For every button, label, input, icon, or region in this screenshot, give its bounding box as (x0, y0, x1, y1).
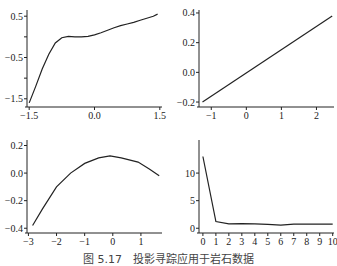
x-tick-label: 3 (239, 236, 244, 247)
x-tick-label: 8 (304, 236, 309, 247)
x-tick-label: 0 (244, 110, 249, 121)
y-tick-label: −0.2 (5, 195, 23, 206)
series-line (33, 156, 160, 226)
y-tick-label: 0.4 (183, 7, 196, 18)
series-line (29, 14, 157, 103)
x-tick-label: 9 (317, 236, 322, 247)
x-tick-label: 2 (226, 236, 231, 247)
subplot-2: 0.40.20.0−0.2−1012 (177, 7, 334, 121)
y-tick-label: −0.4 (5, 223, 23, 234)
y-tick-label: 0 (190, 223, 195, 234)
y-tick-label: 10 (185, 168, 195, 179)
x-tick-label: 7 (291, 236, 296, 247)
y-tick-label: 0.0 (11, 168, 24, 179)
figure-caption: 图 5.17 投影寻踪应用于岩石数据 (0, 250, 337, 266)
x-tick-label: 1 (213, 236, 218, 247)
x-tick-label: −1.5 (20, 110, 38, 121)
y-tick-label: 0.5 (11, 11, 24, 22)
x-tick-label: 5 (265, 236, 270, 247)
y-tick-label: 0.2 (11, 140, 24, 151)
y-tick-label: 0.2 (183, 37, 196, 48)
x-tick-label: 0 (110, 236, 115, 247)
x-tick-label: −3 (23, 236, 34, 247)
subplot-4: 1050012345678910 (185, 140, 337, 247)
x-tick-label: 10 (328, 236, 337, 247)
x-tick-label: −1 (206, 110, 217, 121)
x-tick-label: 0.0 (88, 110, 101, 121)
x-tick-label: 1 (138, 236, 143, 247)
y-tick-label: 0.0 (183, 67, 196, 78)
x-tick-label: 1.5 (154, 110, 167, 121)
x-tick-label: 6 (278, 236, 283, 247)
x-tick-label: 4 (252, 236, 257, 247)
series-line (203, 157, 333, 226)
x-tick-label: 1 (279, 110, 284, 121)
x-tick-label: 0 (200, 236, 205, 247)
subplot-3: 0.20.0−0.2−0.4−3−2−101 (5, 140, 162, 247)
y-tick-label: 5 (190, 195, 195, 206)
x-tick-label: −2 (51, 236, 62, 247)
y-tick-label: −1.5 (5, 93, 23, 104)
y-tick-label: −0.2 (177, 97, 195, 108)
x-tick-label: −1 (79, 236, 90, 247)
series-line (203, 16, 333, 102)
x-tick-label: 2 (314, 110, 319, 121)
y-tick-label: −0.5 (5, 52, 23, 63)
subplot-1: 0.5−0.5−1.5−1.50.01.5 (5, 10, 166, 121)
